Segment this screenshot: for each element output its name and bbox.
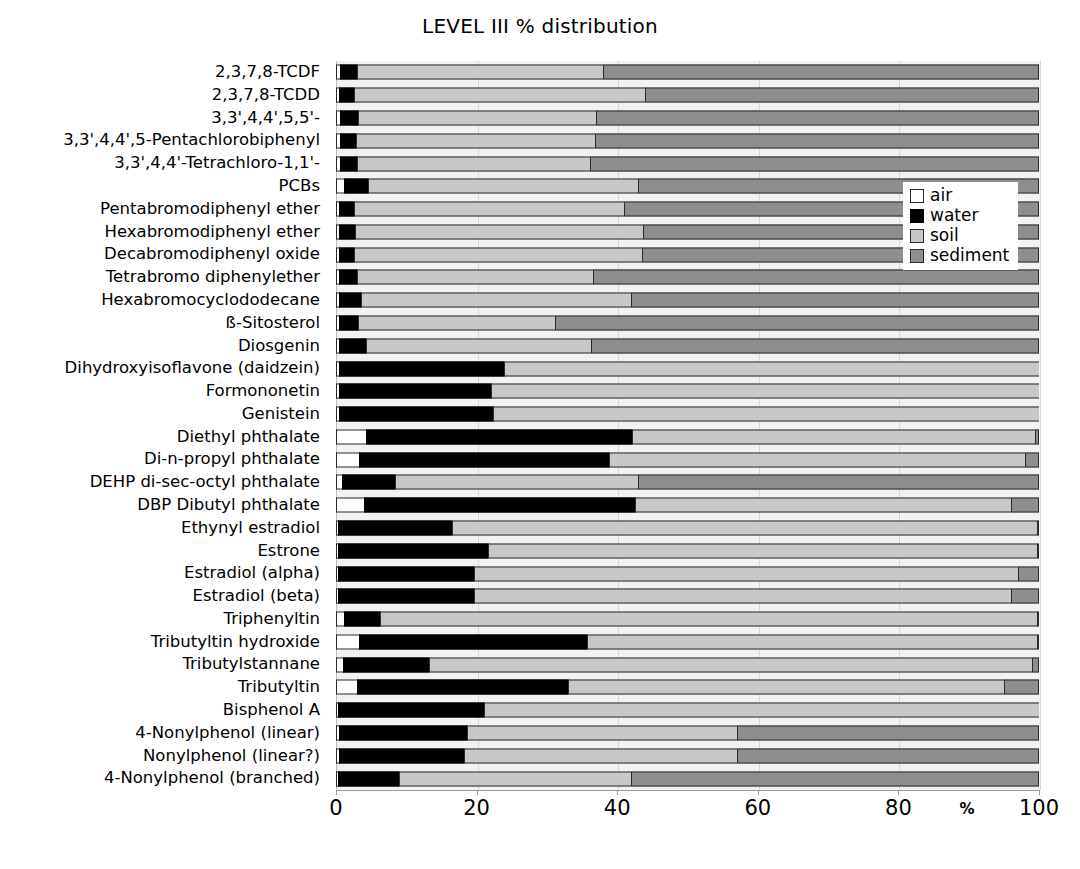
bar-segment-water <box>339 384 491 399</box>
y-axis-label: 3,3',4,4',5,5'- <box>0 107 326 130</box>
stacked-bar[interactable] <box>336 726 1039 741</box>
stacked-bar-rows <box>336 61 1039 790</box>
stacked-bar[interactable] <box>336 521 1039 536</box>
x-tick-60 <box>758 790 759 795</box>
bar-segment-water <box>339 748 464 763</box>
stacked-bar[interactable] <box>336 703 1039 718</box>
bar-segment-air <box>336 498 364 513</box>
legend-item-air[interactable]: air <box>910 187 1009 204</box>
y-axis-label: Tetrabromo diphenylether <box>0 266 326 289</box>
bar-segment-air <box>336 634 359 649</box>
stacked-bar[interactable] <box>336 338 1039 353</box>
bar-segment-soil <box>635 498 1010 513</box>
stacked-bar[interactable] <box>336 429 1039 444</box>
bar-row <box>336 289 1039 312</box>
stacked-bar[interactable] <box>336 543 1039 558</box>
y-axis-label: Tributylstannane <box>0 653 326 676</box>
bar-segment-water <box>339 293 361 308</box>
bar-segment-soil <box>354 202 624 217</box>
y-axis-label: 2,3,7,8-TCDD <box>0 84 326 107</box>
legend-item-water[interactable]: water <box>910 207 1009 224</box>
stacked-bar[interactable] <box>336 452 1039 467</box>
bar-segment-water <box>344 179 367 194</box>
stacked-bar[interactable] <box>336 270 1039 285</box>
bar-segment-soil <box>354 247 642 262</box>
bar-row <box>336 471 1039 494</box>
bar-segment-water <box>340 65 357 80</box>
stacked-bar[interactable] <box>336 680 1039 695</box>
bar-row <box>336 426 1039 449</box>
stacked-bar[interactable] <box>336 589 1039 604</box>
bar-segment-soil <box>380 612 1037 627</box>
stacked-bar[interactable] <box>336 384 1039 399</box>
bar-segment-sediment <box>631 293 1039 308</box>
bar-segment-water <box>338 566 474 581</box>
bar-segment-water <box>338 589 474 604</box>
bar-segment-soil <box>356 133 595 148</box>
stacked-bar[interactable] <box>336 156 1039 171</box>
legend-item-soil[interactable]: soil <box>910 227 1009 244</box>
bar-segment-air <box>336 429 366 444</box>
bar-segment-sediment <box>1004 680 1039 695</box>
x-tick-label: 100 <box>1019 796 1059 820</box>
bar-segment-water <box>339 202 354 217</box>
bar-segment-water <box>339 224 355 239</box>
bar-segment-water <box>339 407 494 422</box>
bar-segment-water <box>339 88 354 103</box>
bar-segment-air <box>336 657 343 672</box>
y-axis-label: Diosgenin <box>0 334 326 357</box>
bar-row <box>336 608 1039 631</box>
stacked-bar[interactable] <box>336 110 1039 125</box>
stacked-bar[interactable] <box>336 133 1039 148</box>
y-axis-label: 4-Nonylphenol (linear) <box>0 722 326 745</box>
bar-segment-soil <box>609 452 1025 467</box>
y-axis-label: Genistein <box>0 403 326 426</box>
stacked-bar[interactable] <box>336 293 1039 308</box>
stacked-bar[interactable] <box>336 65 1039 80</box>
stacked-bar[interactable] <box>336 566 1039 581</box>
y-axis-label: Hexabromocyclododecane <box>0 289 326 312</box>
y-axis-label: Pentabromodiphenyl ether <box>0 198 326 221</box>
y-axis-label: Estradiol (beta) <box>0 585 326 608</box>
y-axis-label: PCBs <box>0 175 326 198</box>
stacked-bar[interactable] <box>336 361 1039 376</box>
stacked-bar[interactable] <box>336 88 1039 103</box>
bar-segment-soil <box>358 315 555 330</box>
stacked-bar[interactable] <box>336 657 1039 672</box>
stacked-bar[interactable] <box>336 748 1039 763</box>
bar-segment-soil <box>355 224 643 239</box>
y-axis-label: Diethyl phthalate <box>0 426 326 449</box>
bar-row <box>336 517 1039 540</box>
x-tick-label: 0 <box>329 796 342 820</box>
bar-segment-sediment <box>593 270 1039 285</box>
stacked-bar[interactable] <box>336 498 1039 513</box>
legend-label: sediment <box>930 247 1009 264</box>
y-axis-label: Estrone <box>0 539 326 562</box>
y-axis-label: Decabromodiphenyl oxide <box>0 243 326 266</box>
bar-segment-soil <box>429 657 1032 672</box>
bar-segment-sediment <box>591 338 1039 353</box>
bar-segment-sediment <box>638 475 1039 490</box>
bar-segment-sediment <box>595 133 1039 148</box>
stacked-bar[interactable] <box>336 475 1039 490</box>
stacked-bar[interactable] <box>336 407 1039 422</box>
stacked-bar[interactable] <box>336 315 1039 330</box>
x-tick-20 <box>477 790 478 795</box>
legend-item-sediment[interactable]: sediment <box>910 247 1009 264</box>
stacked-bar[interactable] <box>336 634 1039 649</box>
bar-row <box>336 744 1039 767</box>
bar-segment-sediment <box>631 771 1039 786</box>
stacked-bar[interactable] <box>336 771 1039 786</box>
bar-segment-soil <box>484 703 1039 718</box>
bar-segment-soil <box>474 566 1017 581</box>
bar-segment-soil <box>358 110 596 125</box>
bar-segment-sediment <box>1011 589 1039 604</box>
stacked-bar[interactable] <box>336 612 1039 627</box>
x-axis-tick-labels: % 020406080100 <box>0 796 1080 832</box>
y-axis-label: Tributyltin hydroxide <box>0 631 326 654</box>
y-axis-label: 3,3',4,4',5-Pentachlorobiphenyl <box>0 129 326 152</box>
bar-row <box>336 631 1039 654</box>
x-tick-label: 20 <box>463 796 490 820</box>
legend-swatch-soil-icon <box>910 229 924 243</box>
bar-segment-sediment <box>603 65 1039 80</box>
